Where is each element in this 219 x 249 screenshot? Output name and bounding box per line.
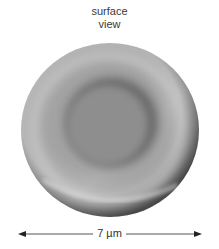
view-caption: surface view (0, 5, 219, 31)
scale-bar: 7 µm (0, 224, 219, 244)
red-blood-cell-icon (18, 40, 204, 220)
caption-line-2: view (0, 18, 219, 31)
scale-label: 7 µm (93, 227, 126, 239)
red-blood-cell-illustration (18, 40, 204, 220)
caption-line-1: surface (0, 5, 219, 18)
